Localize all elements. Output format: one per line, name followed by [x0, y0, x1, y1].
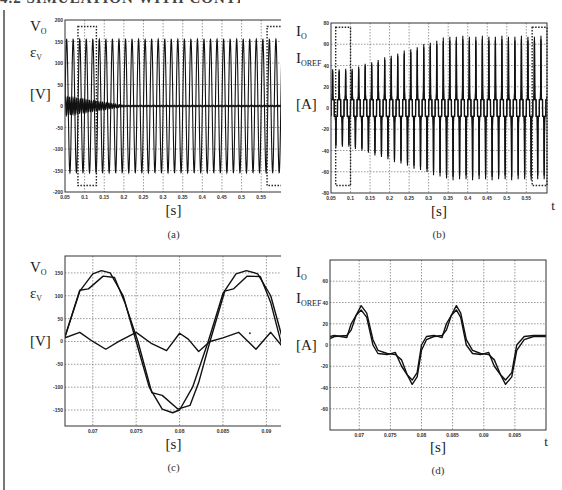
y-tick-label: -60	[321, 406, 328, 412]
x-tick-label: 0.07	[354, 432, 364, 438]
ylabel-primary: IO	[296, 264, 307, 282]
x-axis-symbol: t	[544, 434, 548, 449]
x-axis-label: [s]	[430, 439, 446, 455]
grid-lines	[330, 260, 546, 430]
y-tick-label: 40	[322, 300, 328, 306]
y-tick-label: 20	[322, 321, 328, 327]
y-tick-label: 0	[325, 342, 328, 348]
y-tick-label: -40	[321, 385, 328, 391]
x-tick-label: 0.095	[509, 432, 522, 438]
plot-area: 0.070.0750.080.0850.090.095-60-40-200204…	[321, 260, 546, 438]
x-tick-label: 0.075	[384, 432, 397, 438]
ylabel-unit: [A]	[296, 337, 317, 353]
chart-d-current-zoom: 0.070.0750.080.0850.090.095-60-40-200204…	[0, 0, 562, 490]
x-tick-label: 0.085	[446, 432, 459, 438]
ylabel-secondary: IOREF	[296, 290, 322, 308]
x-tick-label: 0.09	[479, 432, 489, 438]
y-tick-label: 60	[322, 278, 328, 284]
y-tick-label: -20	[321, 363, 328, 369]
x-tick-label: 0.08	[417, 432, 427, 438]
figure-page: 4.2 SIMULATION WITH CONTROLLERS 0.050.10…	[0, 0, 562, 490]
figure-caption: (d)	[432, 464, 445, 477]
